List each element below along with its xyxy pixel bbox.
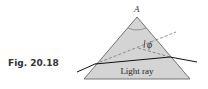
prism-diagram: A ϕ Light ray	[0, 0, 208, 89]
light-ray-label: Light ray	[120, 66, 154, 76]
apex-label: A	[133, 4, 140, 14]
deviation-angle-label: ϕ	[147, 39, 152, 50]
